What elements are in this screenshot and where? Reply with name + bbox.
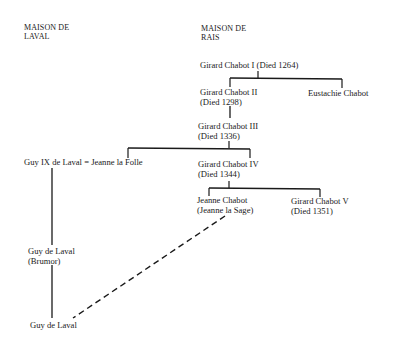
header-laval-line2: LAVAL [24,32,69,41]
bracket-girard-4-children [209,188,320,189]
bracket-girard-1-children [230,78,342,79]
person-jeanne-chabot: Jeanne Chabot (Jeanne la Sage) [197,196,253,215]
person-girard-chabot-4: Girard Chabot IV (Died 1344) [198,160,259,179]
person-name: Eustachie Chabot [308,89,368,99]
person-girard-chabot-1: Girard Chabot I (Died 1264) [200,61,298,71]
person-guy-de-laval: Guy de Laval [30,321,77,331]
person-name: Guy de Laval [30,321,77,331]
person-note: (Died 1344) [198,170,259,180]
header-maison-laval: MAISON DE LAVAL [24,23,69,41]
person-note: (Died 1298) [200,98,257,108]
header-laval-line1: MAISON DE [24,23,69,32]
header-rais-line1: MAISON DE [201,24,246,33]
header-rais-line2: RAIS [201,33,246,42]
genealogy-chart: MAISON DE LAVAL MAISON DE RAIS Girard Ch… [0,0,395,352]
header-maison-rais: MAISON DE RAIS [201,24,246,42]
person-eustachie-chabot: Eustachie Chabot [308,89,368,99]
person-note: (Died 1336) [198,132,258,142]
person-note: (Brumor) [28,257,75,267]
person-name: Guy IX de Laval = Jeanne la Folle [24,158,143,168]
person-girard-chabot-5: Girard Chabot V (Died 1351) [291,197,349,216]
person-girard-chabot-3: Girard Chabot III (Died 1336) [198,122,258,141]
person-guy-ix-marriage: Guy IX de Laval = Jeanne la Folle [24,158,143,168]
person-note: (Jeanne la Sage) [197,206,253,216]
person-name: Girard Chabot I (Died 1264) [200,61,298,71]
dashed-link-jeanne-guy [73,216,225,318]
person-note: (Died 1351) [291,207,349,217]
person-girard-chabot-2: Girard Chabot II (Died 1298) [200,88,257,107]
bracket-girard-3-children [128,148,250,149]
person-guy-de-laval-brumor: Guy de Laval (Brumor) [28,247,75,266]
